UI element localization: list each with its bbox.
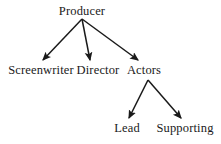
node-producer: Producer	[59, 5, 105, 18]
node-actors: Actors	[127, 64, 161, 77]
edge-producer-actors	[82, 19, 138, 60]
node-screenwriter: Screenwriter	[8, 64, 74, 77]
tree-diagram: Producer Screenwriter Director Actors Le…	[0, 0, 221, 144]
node-supporting: Supporting	[156, 122, 213, 135]
node-lead: Lead	[114, 122, 140, 135]
edge-actors-lead	[129, 80, 148, 118]
node-director: Director	[77, 64, 120, 77]
edge-producer-director	[82, 19, 90, 60]
edge-producer-screenwriter	[43, 19, 82, 60]
edge-actors-supporting	[148, 80, 181, 118]
